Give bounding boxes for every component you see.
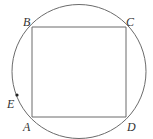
- square-abcd: [32, 27, 126, 117]
- label-a: A: [22, 120, 31, 134]
- label-b: B: [23, 15, 31, 29]
- geometry-figure: A B C D E: [0, 0, 153, 139]
- point-e: [15, 93, 18, 96]
- diagram-canvas: A B C D E: [0, 0, 153, 139]
- label-e: E: [6, 97, 15, 111]
- label-d: D: [126, 120, 136, 134]
- label-c: C: [126, 15, 135, 29]
